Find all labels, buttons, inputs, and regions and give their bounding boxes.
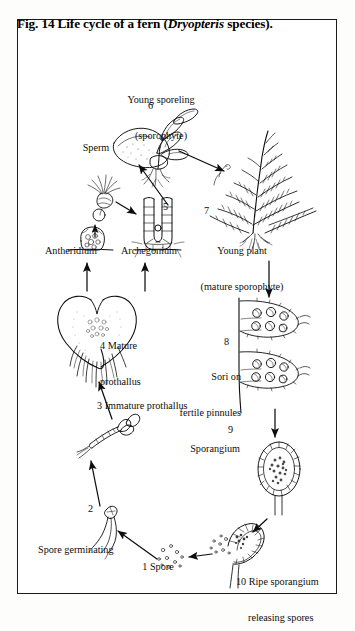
stage-number-6: 6 <box>148 100 153 111</box>
label-ripe-sporangium: 10 Ripe sporangium releasing spores <box>236 552 346 631</box>
stage-number-4: 4 <box>100 340 105 351</box>
stage-number-7: 7 <box>204 205 209 216</box>
label-young-plant-line1: Young plant <box>176 245 308 257</box>
label-mature-prothallus-line2: prothallus <box>100 376 178 388</box>
figure-title: Fig. 14 Life cycle of a fern (Dryopteris… <box>17 16 317 31</box>
label-sori-line1: Sori on <box>178 371 241 383</box>
label-sporangium: Sporangium <box>166 443 240 455</box>
figure-title-prefix: Fig. 14 Life cycle of a fern ( <box>17 16 168 31</box>
label-spore-germinating: Spore germinating <box>38 544 150 556</box>
stage-number-2: 2 <box>88 503 93 514</box>
stage-number-8: 8 <box>224 336 229 347</box>
label-ripe-sporangium-line1: 10 Ripe sporangium <box>236 576 346 588</box>
label-archegonium: Archegonium <box>106 245 192 257</box>
figure-title-suffix: species). <box>224 16 273 31</box>
label-young-sporeling-line1: Young sporeling <box>102 94 220 106</box>
label-mature-prothallus: 4 Mature prothallus <box>100 316 178 412</box>
label-antheridium: Antheridium <box>31 245 111 257</box>
label-young-plant: Young plant (mature sporophyte) <box>176 221 308 317</box>
label-sori-line2: fertile pinnules <box>178 407 241 419</box>
figure-root: Fig. 14 Life cycle of a fern (Dryopteris… <box>0 0 355 631</box>
label-young-sporeling-line2: (sporophyte) <box>102 130 220 142</box>
label-young-plant-line2: (mature sporophyte) <box>176 281 308 293</box>
label-sperm: Sperm <box>69 142 123 154</box>
label-ripe-sporangium-line2: releasing spores <box>236 612 346 624</box>
label-mature-prothallus-line1: 4 Mature <box>100 340 178 352</box>
stage-number-9: 9 <box>228 424 233 435</box>
stage-number-5: 5 <box>163 201 168 212</box>
label-spore: 1 Spore <box>127 561 189 573</box>
figure-title-species: Dryopteris <box>168 16 224 31</box>
